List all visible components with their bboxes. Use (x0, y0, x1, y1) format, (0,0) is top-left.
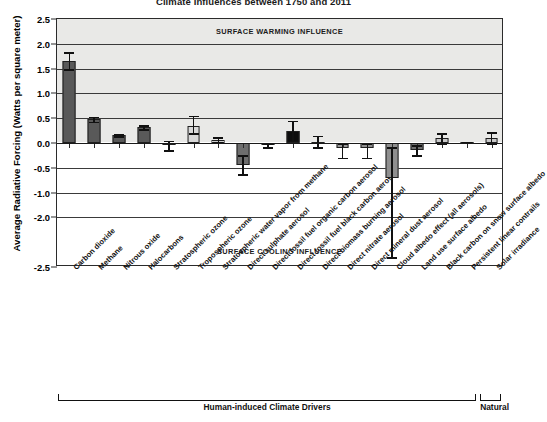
error-bar (193, 116, 195, 133)
group-bracket (58, 394, 476, 401)
group-brackets: Human-induced Climate DriversNatural (56, 394, 503, 420)
bar-group[interactable] (231, 19, 256, 265)
error-bar-cap (89, 117, 99, 119)
y-tick-label: 1.5 (5, 63, 57, 74)
bar-group[interactable] (132, 19, 157, 265)
plot-area: SURFACE WARMING INFLUENCE SURFACE COOLIN… (56, 18, 503, 266)
y-tick-label: 0.5 (5, 113, 57, 124)
error-bar (292, 121, 294, 141)
error-bar-cap (362, 158, 372, 160)
bar-group[interactable] (355, 19, 380, 265)
bar-series (57, 19, 502, 265)
error-bar-cap (338, 158, 348, 160)
bar-group[interactable] (430, 19, 455, 265)
error-bar-cap (263, 147, 273, 149)
chart-title: Climate Influences between 1750 and 2011 (0, 0, 507, 10)
error-bar (491, 132, 493, 143)
error-bar-cap (189, 133, 199, 135)
bar-group[interactable] (57, 19, 82, 265)
group-bracket-label: Natural (480, 402, 501, 412)
error-bar-cap (189, 116, 199, 118)
y-tick-label: -0.5 (5, 162, 57, 173)
bar-group[interactable] (305, 19, 330, 265)
error-bar-cap (164, 141, 174, 143)
error-bar (242, 155, 244, 174)
error-bar (367, 143, 369, 158)
error-bar-cap (164, 150, 174, 152)
bar-group[interactable] (405, 19, 430, 265)
bar-group[interactable] (330, 19, 355, 265)
error-bar-cap (412, 145, 422, 147)
bar[interactable] (63, 61, 76, 143)
error-bar-cap (288, 141, 298, 143)
error-bar-cap (64, 52, 74, 54)
y-tick-label: 0.0 (5, 138, 57, 149)
y-tick-label: -2.0 (5, 212, 57, 223)
cooling-annotation: SURFACE COOLING INFLUENCE (57, 247, 502, 256)
bar-group[interactable] (479, 19, 504, 265)
group-bracket (480, 394, 501, 401)
bar-group[interactable] (206, 19, 231, 265)
error-bar (69, 52, 71, 69)
error-bar (391, 147, 393, 257)
error-bar-cap (64, 69, 74, 71)
bar-group[interactable] (156, 19, 181, 265)
error-bar-cap (288, 121, 298, 123)
x-axis-labels: Carbon dioxideMethaneNitrous oxideHaloca… (56, 266, 503, 386)
group-bracket-label: Human-induced Climate Drivers (58, 402, 476, 412)
error-bar-cap (139, 125, 149, 127)
bar-group[interactable] (380, 19, 405, 265)
y-tick-label: 1.0 (5, 88, 57, 99)
error-bar-cap (387, 147, 397, 149)
error-bar-cap (313, 136, 323, 138)
zero-line (57, 143, 502, 144)
error-bar-cap (487, 132, 497, 134)
bar-group[interactable] (107, 19, 132, 265)
error-bar-cap (238, 174, 248, 176)
error-bar-cap (213, 137, 223, 139)
y-tick-label: 2.0 (5, 38, 57, 49)
error-bar-cap (114, 136, 124, 138)
bar-group[interactable] (454, 19, 479, 265)
warming-annotation: SURFACE WARMING INFLUENCE (57, 27, 502, 36)
bar-group[interactable] (181, 19, 206, 265)
y-tick-label: 2.5 (5, 14, 57, 25)
error-bar-cap (313, 147, 323, 149)
error-bar-cap (412, 155, 422, 157)
y-tick-label: -2.5 (5, 262, 57, 273)
error-bar (342, 143, 344, 158)
bar-group[interactable] (256, 19, 281, 265)
y-tick-label: -1.0 (5, 187, 57, 198)
error-bar-cap (89, 122, 99, 124)
bar-group[interactable] (82, 19, 107, 265)
error-bar-cap (238, 155, 248, 157)
error-bar-cap (387, 257, 397, 259)
error-bar-cap (437, 133, 447, 135)
error-bar (317, 136, 319, 148)
error-bar-cap (139, 129, 149, 131)
bar-group[interactable] (281, 19, 306, 265)
